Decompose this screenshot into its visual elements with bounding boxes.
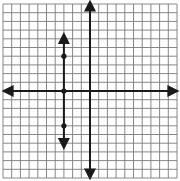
data-point [61,54,66,59]
data-point [61,123,66,128]
plotted-line [61,34,66,147]
data-point [61,88,66,93]
graph-svg [0,0,180,181]
coordinate-plane [0,0,180,181]
